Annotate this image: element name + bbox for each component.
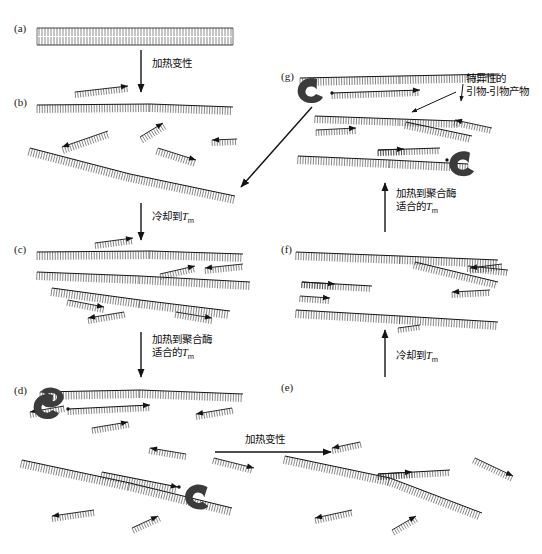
primer (300, 295, 330, 304)
template-strand-c2 (140, 276, 250, 290)
polymerase-dot-g2 (445, 158, 448, 161)
step-label-heat-polymerase-1: 加热到聚合酶 适合的Tm (152, 333, 212, 363)
primer (472, 458, 513, 481)
strands-and-primers (20, 74, 513, 535)
primer (52, 510, 94, 522)
template-strand-e1 (283, 456, 390, 486)
primer (332, 442, 361, 454)
panel-label-b: (b) (14, 96, 27, 108)
heat-polymerase-2-line2: 适合的Tm (396, 200, 456, 217)
pointer-specific-product-down (461, 84, 463, 101)
panel-label-f: (f) (281, 243, 292, 255)
primer (315, 510, 352, 524)
primer (378, 470, 412, 480)
primer (213, 458, 254, 473)
template-strand-c2 (37, 272, 140, 284)
step-label-denature-2: 加热变性 (245, 433, 285, 446)
primer (205, 264, 243, 274)
step-label-cool-tm-2: 冷却到Tm (396, 349, 438, 366)
denature-1-text: 加热变性 (152, 57, 192, 69)
pcr-cycle-figure: (a) (b) (c) (d) (e) (f) (g) 加热变性 冷却到Tm 加… (0, 0, 542, 554)
primer (88, 312, 125, 324)
primer (156, 148, 196, 166)
template-strand-f2 (296, 310, 400, 324)
step-label-cool-tm-1: 冷却到Tm (152, 210, 194, 227)
cool-tm-2-text: 冷却到Tm (396, 349, 438, 361)
primer (316, 126, 356, 136)
template-strand-f1 (296, 252, 400, 264)
extending-primer (68, 403, 150, 415)
specific-product-line2: 引物-引物产物 (466, 85, 530, 98)
template-strand-d1 (140, 390, 243, 402)
step-label-specific-product: 特异性的 引物-引物产物 (466, 72, 530, 98)
arrow-b-to-g-diagonal (241, 107, 312, 187)
panel-label-d: (d) (14, 384, 27, 396)
template-strand-f2 (400, 316, 498, 330)
denature-2-text: 加热变性 (245, 433, 285, 445)
template-strand-c1 (150, 251, 243, 262)
polymerase-dot-d (66, 407, 69, 410)
primer (75, 84, 128, 98)
primer (196, 408, 233, 420)
primer (62, 131, 109, 154)
template-strand-d2 (20, 460, 130, 491)
primer (95, 236, 133, 249)
polymerase-dot-d2 (177, 485, 180, 488)
polymerase-dot-g (330, 91, 333, 94)
template-strand-c3 (139, 300, 230, 319)
template-strand-c1 (37, 251, 150, 260)
panel-a-dna (37, 28, 233, 45)
heat-polymerase-2-line1: 加热到聚合酶 (396, 187, 456, 200)
primer (67, 300, 104, 313)
panel-label-e: (e) (281, 381, 293, 393)
primer (454, 119, 492, 134)
template-strand-b1 (150, 104, 233, 115)
template-strand-b2 (28, 148, 130, 181)
template-strand-g2 (315, 116, 400, 126)
pointer-specific-product-left (412, 92, 456, 112)
heat-polymerase-1-line1: 加热到聚合酶 (152, 333, 212, 346)
primer (92, 420, 129, 434)
template-strand-e1 (387, 478, 482, 520)
polymerase-blob-d2 (182, 481, 213, 512)
extending-primer (101, 472, 178, 493)
template-strand-b1 (37, 104, 150, 113)
panel-label-c: (c) (14, 243, 26, 255)
primer (132, 516, 160, 533)
primer (302, 281, 335, 290)
primer (149, 446, 186, 460)
primer (378, 146, 404, 156)
heat-polymerase-1-line2: 适合的Tm (152, 346, 212, 363)
step-label-denature-1: 加热变性 (152, 57, 192, 70)
panel-label-g: (g) (281, 70, 294, 82)
step-label-heat-polymerase-2: 加热到聚合酶 适合的Tm (396, 187, 456, 217)
pcr-diagram-canvas (0, 0, 542, 554)
polymerase-blob-g (298, 78, 323, 103)
template-strand-g3 (298, 156, 390, 168)
panel-label-a: (a) (14, 22, 26, 34)
extending-primer (332, 87, 420, 99)
specific-product-line1: 特异性的 (466, 72, 530, 85)
primer (140, 123, 166, 143)
cool-tm-1-text: 冷却到Tm (152, 210, 194, 222)
template-strand-b2 (128, 174, 235, 204)
primer (452, 289, 490, 298)
primer (392, 516, 417, 535)
primer (398, 325, 420, 333)
primer (212, 137, 237, 146)
polymerase-enzymes (34, 78, 476, 512)
